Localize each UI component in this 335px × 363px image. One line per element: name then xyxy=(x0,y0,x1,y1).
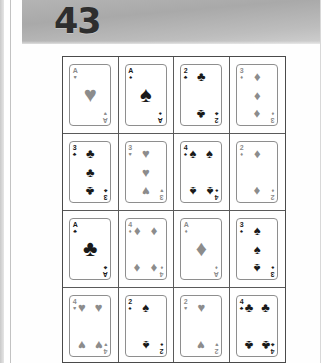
card-corner-br: 3♦ xyxy=(271,111,275,124)
clubs-icon: ♣ xyxy=(184,75,188,80)
playing-card[interactable]: 2♣2♣♣♣ xyxy=(180,64,222,126)
card-grid-body: A♥A♥♥A♠A♠♠2♣2♣♣♣3♦3♦♦♦♦3♣3♣♣♣♣3♥3♥♥♥♥4♠4… xyxy=(63,57,285,363)
card-pip-area: ♦ xyxy=(188,224,214,274)
diamonds-pip-icon: ♦ xyxy=(254,70,261,83)
hearts-pip-icon: ♥ xyxy=(197,301,205,314)
playing-card[interactable]: 2♦2♦♦♦ xyxy=(236,141,278,203)
hearts-icon: ♥ xyxy=(215,342,218,347)
diamonds-pip-icon: ♦ xyxy=(254,147,261,160)
card-pip-area: ♦♦♦ xyxy=(244,70,270,120)
card-rank: 4 xyxy=(104,347,108,354)
clubs-icon: ♣ xyxy=(104,265,108,270)
playing-card[interactable]: 2♥2♥♥♥ xyxy=(180,295,222,357)
card-rank: 3 xyxy=(271,116,275,123)
hearts-pip-icon: ♥ xyxy=(197,339,205,352)
card-pip-area: ♠♠ xyxy=(133,301,159,351)
card-corner-br: 3♠ xyxy=(271,265,275,278)
card-rank: A xyxy=(103,116,108,123)
playing-card[interactable]: A♣A♣♣ xyxy=(69,218,111,280)
playing-card[interactable]: 4♠4♠♠♠♠♠ xyxy=(180,141,222,203)
card-corner-br: 2♠ xyxy=(160,342,164,355)
card-pip-area: ♠♠♠ xyxy=(244,224,270,274)
spades-icon: ♠ xyxy=(184,152,187,157)
card-corner-tl: 3♦ xyxy=(240,67,244,80)
card-rank: 2 xyxy=(215,347,219,354)
card-rank: 3 xyxy=(73,144,77,151)
playing-card[interactable]: A♥A♥♥ xyxy=(69,64,111,126)
diamonds-icon: ♦ xyxy=(240,152,243,157)
playing-card[interactable]: 2♠2♠♠♠ xyxy=(125,295,167,357)
card-pip-area: ♥♥ xyxy=(188,301,214,351)
diamonds-pip-icon: ♦ xyxy=(151,224,158,237)
card-cell: 3♠3♠♠♠♠ xyxy=(230,211,286,288)
playing-card[interactable]: 4♥4♥♥♥♥♥ xyxy=(69,295,111,357)
spades-pip-icon: ♠ xyxy=(140,84,152,106)
clubs-pip-icon: ♣ xyxy=(245,339,254,352)
clubs-pip-icon: ♣ xyxy=(86,147,95,160)
clubs-pip-icon: ♣ xyxy=(261,339,270,352)
playing-card[interactable]: 4♦4♦♦♦♦♦ xyxy=(125,218,167,280)
spades-icon: ♠ xyxy=(216,188,219,193)
card-rank: 2 xyxy=(128,298,132,305)
card-corner-br: A♠ xyxy=(158,111,163,124)
playing-card[interactable]: A♦A♦♦ xyxy=(180,218,222,280)
spades-icon: ♠ xyxy=(129,306,132,311)
clubs-icon: ♣ xyxy=(240,306,244,311)
hearts-icon: ♥ xyxy=(160,188,163,193)
diamonds-icon: ♦ xyxy=(272,111,275,116)
clubs-pip-icon: ♣ xyxy=(245,301,254,314)
card-rank: 3 xyxy=(160,193,164,200)
card-pip-area: ♣ xyxy=(77,224,103,274)
spades-pip-icon: ♠ xyxy=(254,224,261,237)
clubs-pip-icon: ♣ xyxy=(83,238,97,260)
card-rank: 4 xyxy=(240,298,244,305)
card-cell: 2♦2♦♦♦ xyxy=(230,134,286,211)
spades-pip-icon: ♠ xyxy=(254,262,261,275)
card-corner-tl: 4♦ xyxy=(128,221,132,234)
card-corner-tl: 4♠ xyxy=(184,144,188,157)
clubs-icon: ♣ xyxy=(73,152,77,157)
card-rank: 2 xyxy=(240,144,244,151)
card-rank: 2 xyxy=(184,67,188,74)
playing-card[interactable]: 3♠3♠♠♠♠ xyxy=(236,218,278,280)
card-cell: 2♠2♠♠♠ xyxy=(119,288,175,363)
card-corner-tl: 4♥ xyxy=(73,298,77,311)
card-pip-area: ♣♣♣ xyxy=(77,147,103,197)
card-pip-area: ♥♥♥♥ xyxy=(77,301,103,351)
card-corner-br: A♥ xyxy=(103,111,108,124)
card-pip-area: ♥ xyxy=(77,70,103,120)
card-rank: 3 xyxy=(271,270,275,277)
card-corner-br: A♣ xyxy=(103,265,108,278)
card-cell: 4♠4♠♠♠♠♠ xyxy=(174,134,230,211)
card-rank: 3 xyxy=(128,144,132,151)
card-rank: A xyxy=(214,270,219,277)
card-cell: 4♣4♣♣♣♣♣ xyxy=(230,288,286,363)
card-rank: 4 xyxy=(215,193,219,200)
card-corner-tl: 4♣ xyxy=(240,298,244,311)
card-rank: A xyxy=(103,270,108,277)
scanned-page: 43 A♥A♥♥A♠A♠♠2♣2♣♣♣3♦3♦♦♦♦3♣3♣♣♣♣3♥3♥♥♥♥… xyxy=(0,0,335,363)
clubs-pip-icon: ♣ xyxy=(197,70,206,83)
diamonds-icon: ♦ xyxy=(160,265,163,270)
playing-card[interactable]: A♠A♠♠ xyxy=(125,64,167,126)
card-pip-area: ♦♦ xyxy=(244,147,270,197)
diamonds-icon: ♦ xyxy=(240,75,243,80)
card-cell: 4♥4♥♥♥♥♥ xyxy=(63,288,119,363)
playing-card[interactable]: 4♣4♣♣♣♣♣ xyxy=(236,295,278,357)
hearts-icon: ♥ xyxy=(128,152,131,157)
card-corner-br: 4♥ xyxy=(104,342,108,355)
hearts-icon: ♥ xyxy=(184,306,187,311)
card-corner-tl: 2♠ xyxy=(128,298,132,311)
card-corner-br: 2♥ xyxy=(215,342,219,355)
card-rank: A xyxy=(158,116,163,123)
card-corner-br: 2♣ xyxy=(215,111,219,124)
clubs-pip-icon: ♣ xyxy=(261,301,270,314)
card-rank: 2 xyxy=(215,116,219,123)
page-header-band: 43 xyxy=(22,0,320,44)
playing-card[interactable]: 3♥3♥♥♥♥ xyxy=(125,141,167,203)
spades-icon: ♠ xyxy=(160,342,163,347)
playing-card[interactable]: 3♣3♣♣♣♣ xyxy=(69,141,111,203)
playing-card[interactable]: 3♦3♦♦♦♦ xyxy=(236,64,278,126)
diamonds-pip-icon: ♦ xyxy=(254,108,261,121)
diamonds-icon: ♦ xyxy=(185,229,188,234)
